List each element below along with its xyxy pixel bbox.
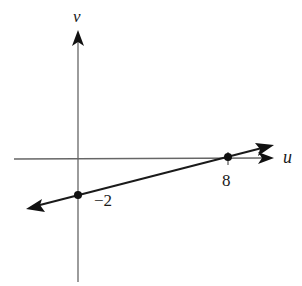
v-axis bbox=[72, 30, 84, 282]
point-u-intercept bbox=[224, 153, 232, 161]
graph-canvas: v u −2 8 bbox=[0, 0, 302, 286]
graph-line bbox=[26, 143, 274, 212]
line-arrow-left-icon bbox=[26, 199, 45, 212]
v-axis-label: v bbox=[73, 7, 81, 26]
u-axis-label: u bbox=[283, 147, 292, 167]
u-intercept-label: 8 bbox=[222, 171, 231, 190]
point-v-intercept bbox=[74, 191, 82, 199]
v-intercept-label: −2 bbox=[94, 191, 112, 210]
u-axis bbox=[14, 152, 274, 164]
